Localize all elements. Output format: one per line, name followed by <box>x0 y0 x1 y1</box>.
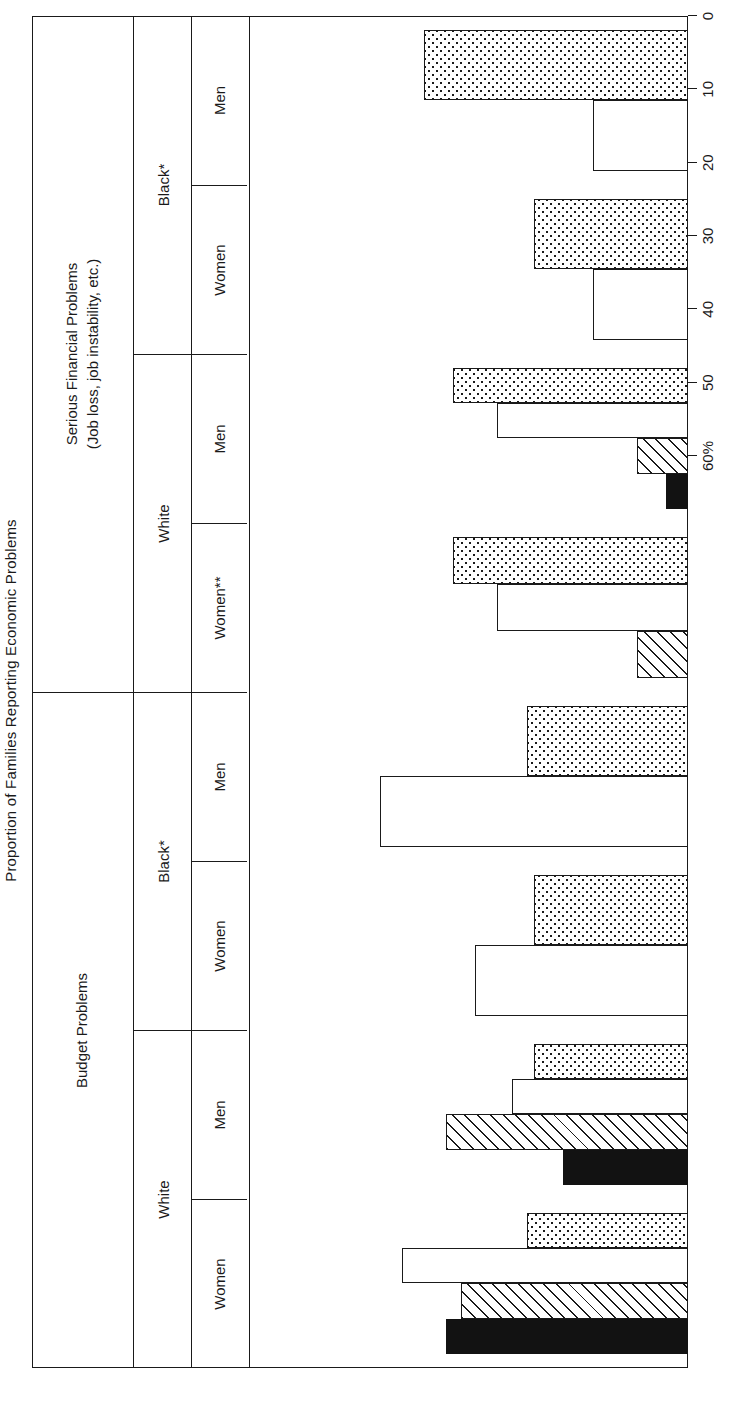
bar-lower-middle <box>637 631 688 678</box>
bar-upper-lower <box>593 101 688 172</box>
axis-tick <box>688 162 697 163</box>
bar-upper-middle <box>666 474 688 509</box>
bar-group <box>248 1199 688 1368</box>
bar-group <box>248 861 688 1030</box>
page-title: Proportion of Families Reporting Economi… <box>2 0 26 1401</box>
bar-upper-middle <box>563 1150 688 1185</box>
rotated-figure-stage: Proportion of Families Reporting Economi… <box>0 0 739 1401</box>
bar-upper-lower <box>512 1079 688 1114</box>
bar-group <box>248 185 688 354</box>
axis-tick <box>688 88 697 89</box>
bar-group <box>248 523 688 692</box>
bar-upper-lower <box>380 777 688 848</box>
bar-upper-middle <box>446 1319 688 1354</box>
legend-wrapper: Upper-middle classLower-middle classUppe… <box>699 0 739 1401</box>
bar-lower-lower <box>453 368 688 403</box>
bar-group <box>248 354 688 523</box>
bar-lower-lower <box>424 30 688 101</box>
bar-upper-lower <box>497 584 688 631</box>
bar-upper-lower <box>497 403 688 438</box>
bar-lower-middle <box>637 439 688 474</box>
bar-group <box>248 1030 688 1199</box>
bar-upper-lower <box>475 946 688 1017</box>
bar-lower-lower <box>527 1213 688 1248</box>
axis-tick <box>688 455 697 456</box>
bar-lower-middle <box>461 1284 688 1319</box>
axis-tick <box>688 235 697 236</box>
axis-tick <box>688 308 697 309</box>
axis-tick <box>688 382 697 383</box>
bar-lower-lower <box>453 537 688 584</box>
axis-tick <box>688 15 697 16</box>
bar-lower-lower <box>534 1044 688 1079</box>
bar-group <box>248 692 688 861</box>
bar-upper-lower <box>402 1248 688 1283</box>
bar-group <box>248 16 688 185</box>
bar-lower-lower <box>527 706 688 777</box>
bar-lower-middle <box>446 1115 688 1150</box>
bar-lower-lower <box>534 875 688 946</box>
chart-figure: Proportion of Families Reporting Economi… <box>0 0 739 1401</box>
plot-area <box>248 16 688 1368</box>
bar-lower-lower <box>534 199 688 270</box>
bar-upper-lower <box>593 270 688 341</box>
